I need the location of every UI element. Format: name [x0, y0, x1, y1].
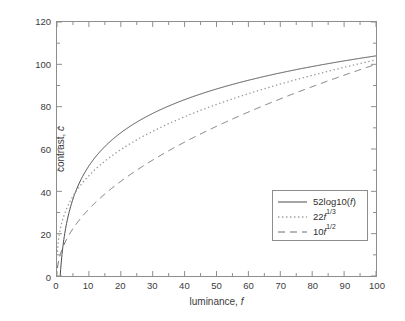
legend-label: 52log10(f) [308, 196, 356, 207]
y-tick-label: 0 [46, 272, 51, 283]
legend-entry: 52log10(f) [273, 194, 367, 209]
x-tick-label: 20 [115, 280, 126, 291]
x-tick-label: 30 [147, 280, 158, 291]
y-tick-label: 100 [35, 58, 51, 69]
x-tick-label: 50 [211, 280, 222, 291]
legend-label: 10f1/2 [308, 226, 336, 237]
legend-box: 52log10(f)22f1/310f1/2 [272, 190, 368, 241]
y-tick-label: 80 [40, 101, 51, 112]
y-tick-label: 20 [40, 229, 51, 240]
x-tick-label: 100 [369, 280, 385, 291]
x-tick-label: 90 [340, 280, 351, 291]
x-tick-label: 80 [308, 280, 319, 291]
legend-entry: 10f1/2 [273, 224, 367, 239]
legend-label: 22f1/3 [308, 211, 336, 222]
legend-line-sample [277, 212, 308, 222]
x-axis-title: luminance, f [56, 296, 377, 307]
x-tick-label: 0 [53, 280, 58, 291]
legend-entry: 22f1/3 [273, 209, 367, 224]
y-tick-label: 60 [40, 144, 51, 155]
y-tick-label: 120 [35, 16, 51, 27]
x-tick-label: 70 [275, 280, 286, 291]
series-line [60, 56, 376, 276]
legend-line-sample [277, 227, 308, 237]
y-axis-title: contrast, c [55, 94, 66, 204]
legend-line-sample [277, 197, 308, 207]
x-tick-label: 40 [179, 280, 190, 291]
x-tick-label: 10 [83, 280, 94, 291]
y-tick-label: 40 [40, 186, 51, 197]
x-tick-label: 60 [243, 280, 254, 291]
chart-figure: 0102030405060708090100 020406080100120 l… [0, 0, 405, 321]
